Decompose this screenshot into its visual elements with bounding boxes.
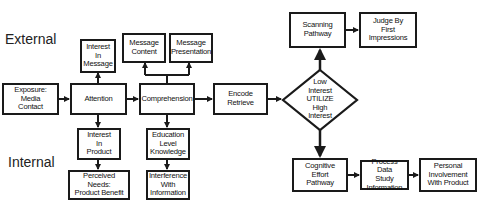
- process-data-label: Process Data Study Information: [363, 158, 406, 192]
- message-presentation-node: Message Presentation: [169, 33, 213, 63]
- interest-in-product-label: Interest In Product: [87, 131, 112, 157]
- scanning-pathway-node: Scanning Pathway: [289, 12, 346, 48]
- judge-first-impressions-label: Judge By First Impressions: [369, 17, 408, 43]
- process-data-node: Process Data Study Information: [360, 160, 409, 190]
- interference-node: Interference With Information: [146, 170, 190, 200]
- exposure-label: Exposure: Media Contact: [14, 86, 46, 112]
- internal-label: Internal: [8, 154, 55, 170]
- decision-label: Low Interest UTILIZE High Interest: [296, 78, 344, 121]
- comprehension-label: Comprehension: [142, 95, 193, 104]
- personal-involvement-label: Personal Involvement With Product: [427, 162, 468, 188]
- judge-first-impressions-node: Judge By First Impressions: [359, 12, 417, 48]
- encode-retrieve-label: Encode Retrieve: [227, 90, 254, 107]
- exposure-node: Exposure: Media Contact: [2, 83, 59, 115]
- personal-involvement-node: Personal Involvement With Product: [419, 158, 477, 192]
- flow-diagram: External Internal Exposure: Media Contac…: [0, 0, 490, 209]
- interest-in-message-node: Interest In Message: [80, 39, 116, 73]
- cognitive-effort-label: Cognitive Effort Pathway: [305, 162, 335, 188]
- message-presentation-label: Message Presentation: [171, 39, 211, 56]
- education-node: Education Level Knowledge: [146, 128, 190, 160]
- external-label: External: [5, 31, 56, 47]
- encode-retrieve-node: Encode Retrieve: [213, 83, 268, 115]
- message-content-node: Message Content: [122, 33, 166, 63]
- perceived-needs-node: Perceived Needs: Product Benefit: [68, 170, 130, 200]
- perceived-needs-label: Perceived Needs: Product Benefit: [71, 172, 127, 198]
- interest-in-message-label: Interest In Message: [83, 43, 112, 69]
- comprehension-node: Comprehension: [139, 83, 195, 115]
- education-label: Education Level Knowledge: [150, 131, 186, 157]
- interest-in-product-node: Interest In Product: [77, 128, 121, 160]
- interference-label: Interference With Information: [149, 172, 187, 198]
- cognitive-effort-node: Cognitive Effort Pathway: [292, 158, 348, 192]
- attention-node: Attention: [70, 83, 127, 115]
- attention-label: Attention: [84, 95, 112, 104]
- message-content-label: Message Content: [129, 39, 158, 56]
- scanning-pathway-label: Scanning Pathway: [302, 21, 332, 38]
